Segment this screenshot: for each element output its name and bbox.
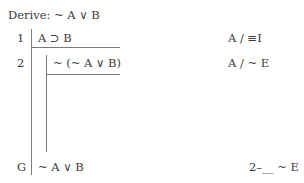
formula-line-1: A ⊃ B — [38, 31, 72, 45]
formula-line-2: ~ (~ A ∨ B) — [53, 56, 121, 70]
subproof-scope-line — [46, 55, 47, 152]
justification-goal: 2–__ ~ E — [249, 160, 299, 174]
justification-line-2: A / ~ E — [228, 56, 269, 70]
derive-goal: Derive: ~ A ∨ B — [8, 8, 100, 22]
line-number-1: 1 — [17, 31, 24, 45]
main-scope-line — [31, 29, 32, 175]
line-number-goal: G — [17, 160, 26, 174]
main-assumption-bar — [31, 47, 120, 48]
subproof-assumption-bar — [46, 74, 120, 75]
formula-goal: ~ A ∨ B — [38, 160, 84, 174]
justification-line-1: A / ≡I — [228, 31, 262, 45]
line-number-2: 2 — [17, 56, 24, 70]
